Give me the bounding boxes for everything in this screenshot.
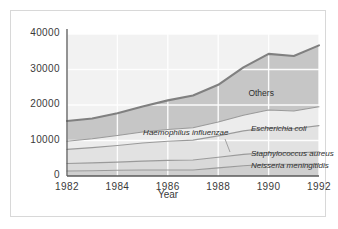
chart-frame: 0100002000030000400001982198419861988199…	[10, 10, 326, 217]
y-axis-tick-label: 40000	[30, 27, 60, 38]
series-label-haemophilus-influenzae: Haemophilus influenzae	[143, 128, 228, 137]
series-label-neisseria-meningitidis: Neisseria meningitidis	[251, 161, 329, 170]
y-axis-tick-label: 30000	[30, 63, 60, 74]
y-axis-tick-label: 10000	[30, 134, 60, 145]
series-label-escherichia-coli: Escherichia coli	[251, 124, 307, 133]
series-label-others: Others	[248, 88, 274, 98]
series-label-staphylococcus-aureus: Staphylococcus aureus	[251, 149, 334, 158]
x-axis-title: Year	[11, 189, 325, 200]
y-axis-tick-label: 20000	[30, 98, 60, 109]
y-axis-tick-label: 0	[54, 169, 60, 180]
